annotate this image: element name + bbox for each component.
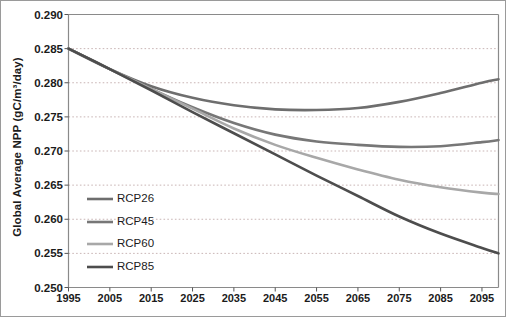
x-tick-label: 2055 bbox=[304, 292, 328, 304]
legend-label-rcp45: RCP45 bbox=[117, 215, 154, 227]
x-tick-label: 2035 bbox=[222, 292, 246, 304]
x-tick-label: 2015 bbox=[139, 292, 163, 304]
x-tick-label: 2005 bbox=[98, 292, 122, 304]
series-line-rcp60 bbox=[69, 49, 499, 194]
x-tick-label: 1995 bbox=[56, 292, 80, 304]
legend bbox=[87, 199, 113, 267]
legend-label-rcp85: RCP85 bbox=[117, 260, 154, 272]
plot-area bbox=[1, 1, 506, 317]
legend-label-rcp60: RCP60 bbox=[117, 237, 154, 249]
chart-container: Global Average NPP (gC/m³/day) 0.2500.25… bbox=[0, 0, 506, 317]
legend-label-rcp26: RCP26 bbox=[117, 192, 154, 204]
x-tick-label: 2045 bbox=[263, 292, 287, 304]
x-tick-label: 2085 bbox=[428, 292, 452, 304]
x-tick-label: 2095 bbox=[470, 292, 494, 304]
x-tick-label: 2025 bbox=[180, 292, 204, 304]
x-tick-label: 2075 bbox=[387, 292, 411, 304]
x-tick-label: 2065 bbox=[346, 292, 370, 304]
series-line-rcp45 bbox=[69, 49, 499, 147]
